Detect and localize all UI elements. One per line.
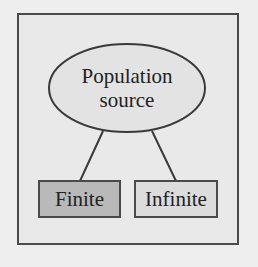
population-source-node: Population source <box>49 44 205 132</box>
connector-finite <box>80 131 103 181</box>
finite-node: Finite <box>38 180 121 218</box>
root-label-line1: Population <box>81 64 172 88</box>
finite-label: Finite <box>55 187 104 212</box>
infinite-node: Infinite <box>134 180 218 218</box>
connector-infinite <box>152 131 176 181</box>
infinite-label: Infinite <box>145 187 207 212</box>
diagram-connectors <box>0 0 258 267</box>
root-label-line2: source <box>100 88 155 112</box>
